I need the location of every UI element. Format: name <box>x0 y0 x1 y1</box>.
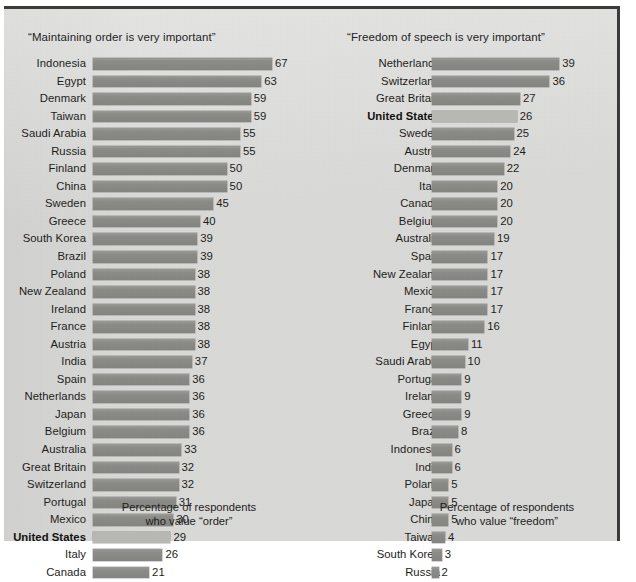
bar-row-label: Portugal <box>338 372 440 387</box>
bar-row-label: Switzerland <box>338 74 440 89</box>
bar-value-label: 26 <box>165 547 178 562</box>
bar-row-label: Spain <box>4 372 86 387</box>
bar-row: Saudi Arabia10 <box>320 354 620 372</box>
bar <box>432 58 559 70</box>
bar <box>432 286 487 298</box>
bar-row: Indonesia67 <box>4 56 320 74</box>
bar <box>93 532 170 544</box>
bar-value-label: 33 <box>184 442 197 457</box>
bar <box>93 304 195 316</box>
bar <box>432 426 458 438</box>
bar-row-label: Japan <box>4 407 86 422</box>
bar-row-label: United States <box>4 530 86 545</box>
bar-row: Canada20 <box>320 196 620 214</box>
bar-row: Netherlands39 <box>320 56 620 74</box>
bar <box>93 462 179 474</box>
bar-row-label: Denmark <box>338 161 440 176</box>
bar <box>432 216 497 228</box>
bar-row-label: Ireland <box>338 389 440 404</box>
bar-row-label: Spain <box>338 249 440 264</box>
bar <box>93 233 197 245</box>
bar-row-label: Belgium <box>338 214 440 229</box>
chart-freedom-of-speech: “Freedom of speech is very important” Ne… <box>320 9 620 541</box>
bar-value-label: 59 <box>254 109 267 124</box>
bar-row-label: Italy <box>4 547 86 562</box>
bar-row: Taiwan4 <box>320 530 620 548</box>
bar <box>432 409 461 421</box>
bar-row: France38 <box>4 319 320 337</box>
bar-row-label: Italy <box>338 179 440 194</box>
bar-row-label: Australia <box>338 231 440 246</box>
bar-value-label: 2 <box>442 565 448 580</box>
bar-row: Saudi Arabia55 <box>4 126 320 144</box>
bar <box>93 391 189 403</box>
bar-row-label: Russia <box>338 565 440 580</box>
bar-row: Egypt63 <box>4 74 320 92</box>
bar-value-label: 9 <box>464 389 470 404</box>
bar-row-label: Egypt <box>4 74 86 89</box>
bar <box>93 339 195 351</box>
bar-value-label: 55 <box>243 126 256 141</box>
bar <box>432 128 514 140</box>
bar <box>93 163 227 175</box>
bar-row: Portugal9 <box>320 372 620 390</box>
bar <box>432 304 487 316</box>
bar-row: Belgium20 <box>320 214 620 232</box>
bar-row-label: China <box>4 179 86 194</box>
bar-row-label: Finland <box>338 319 440 334</box>
bar-value-label: 27 <box>523 91 536 106</box>
bar-row-label: France <box>338 302 440 317</box>
bar-row: Japan36 <box>4 407 320 425</box>
bar-row-label: Austria <box>4 337 86 352</box>
bar-row: Russia2 <box>320 565 620 582</box>
chart-title-freedom: “Freedom of speech is very important” <box>347 31 545 43</box>
bar-value-label: 40 <box>203 214 216 229</box>
bar-row: Brazil39 <box>4 249 320 267</box>
bar-row: Finland16 <box>320 319 620 337</box>
bar <box>93 58 272 70</box>
bar-value-label: 36 <box>192 407 205 422</box>
bar-value-label: 63 <box>264 74 277 89</box>
bar <box>432 198 497 210</box>
bar-row-label: Canada <box>4 565 86 580</box>
bar <box>432 567 439 579</box>
bar-row-label: Saudi Arabia <box>338 354 440 369</box>
bar-row: Denmark59 <box>4 91 320 109</box>
bar-row: Sweden25 <box>320 126 620 144</box>
bar <box>432 532 445 544</box>
bar-row: New Zealand17 <box>320 267 620 285</box>
bar <box>93 76 261 88</box>
bar-row-label: Great Britain <box>4 460 86 475</box>
bar-value-label: 20 <box>500 179 513 194</box>
bar-row: Switzerland32 <box>4 477 320 495</box>
bar <box>432 374 461 386</box>
bar-row-label: Indonesia <box>4 56 86 71</box>
bar-row: Mexico17 <box>320 284 620 302</box>
bar <box>93 356 192 368</box>
bar-value-label: 9 <box>464 372 470 387</box>
bar-row: Austria24 <box>320 144 620 162</box>
bar-row: France17 <box>320 302 620 320</box>
bar-row: Australia33 <box>4 442 320 460</box>
bar-row: Indonesia6 <box>320 442 620 460</box>
bar <box>432 444 452 456</box>
bar-value-label: 20 <box>500 214 513 229</box>
bar-value-label: 17 <box>490 249 503 264</box>
bar-value-label: 17 <box>490 284 503 299</box>
bar <box>93 198 213 210</box>
bar-row: Italy26 <box>4 547 320 565</box>
bar-row: Russia55 <box>4 144 320 162</box>
bar <box>93 216 200 228</box>
bar <box>432 479 448 491</box>
bar <box>93 111 251 123</box>
bar-value-label: 36 <box>552 74 565 89</box>
bar-row: Canada21 <box>4 565 320 582</box>
bar-row: Brazil8 <box>320 424 620 442</box>
chart-panel: “Maintaining order is very important” In… <box>4 6 620 541</box>
bar-value-label: 6 <box>455 442 461 457</box>
bar-row-label: New Zealand <box>338 267 440 282</box>
bar-value-label: 9 <box>464 407 470 422</box>
bar-row: South Korea3 <box>320 547 620 565</box>
bar <box>93 374 189 386</box>
bar-row: Denmark22 <box>320 161 620 179</box>
